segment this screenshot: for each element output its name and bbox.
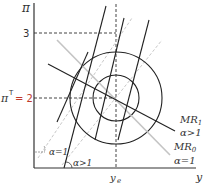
x-tick-ye-sub: e bbox=[117, 177, 121, 185]
y-tick-target-value: = 2 bbox=[15, 93, 33, 104]
pc-line-3 bbox=[95, 18, 124, 140]
y-tick-target-symbol: π bbox=[0, 92, 9, 105]
angle-label-alpha1: α=1 bbox=[49, 147, 68, 157]
grey-dashed-line-2 bbox=[62, 40, 162, 165]
x-tick-ye: y bbox=[109, 172, 116, 183]
y-axis-label: π bbox=[21, 1, 31, 15]
y-tick-target-sup: T bbox=[8, 89, 14, 97]
mr0-line bbox=[57, 40, 170, 155]
x-axis-label: y bbox=[195, 171, 203, 184]
mr1-condition: α>1 bbox=[180, 127, 202, 138]
angle-marker-alpha-gt1 bbox=[66, 162, 72, 168]
pc-line-4 bbox=[118, 20, 149, 140]
y-tick-3: 3 bbox=[23, 28, 29, 39]
mr-diagram: π 3 π T = 2 y e y α=1 α>1 MR1 α>1 MR0 α=… bbox=[0, 0, 206, 185]
angle-label-alpha-gt1: α>1 bbox=[73, 158, 92, 168]
pc-line-2 bbox=[64, 6, 106, 168]
mr0-label: MR0 bbox=[173, 141, 197, 154]
mr1-label: MR1 bbox=[179, 114, 202, 127]
mr0-condition: α=1 bbox=[174, 155, 196, 166]
